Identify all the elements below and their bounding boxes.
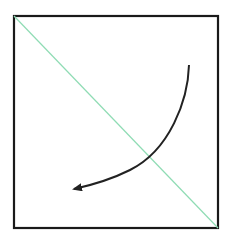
diagonal-line: [14, 16, 218, 228]
curved-arrow-icon: [74, 65, 189, 189]
diagram-canvas: [0, 0, 226, 246]
